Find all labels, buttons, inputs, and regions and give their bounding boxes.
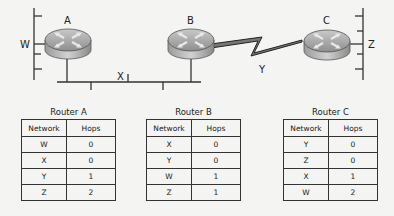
network-cell: X: [22, 153, 67, 169]
router-c: [304, 30, 350, 60]
hops-cell: 1: [67, 169, 116, 185]
network-cell: W: [147, 169, 192, 185]
table-row: X0: [22, 153, 116, 169]
routing-table-b: Router B Network Hops X0 Y0 W1 Z1: [146, 106, 241, 201]
network-cell: W: [284, 185, 329, 201]
table-header-row: Network Hops: [284, 120, 378, 137]
hops-cell: 0: [329, 153, 378, 169]
hops-cell: 2: [329, 185, 378, 201]
column-header-network: Network: [284, 120, 329, 137]
network-cell: Z: [147, 185, 192, 201]
table-row: X1: [284, 169, 378, 185]
hops-cell: 0: [192, 153, 241, 169]
table-header-row: Network Hops: [22, 120, 116, 137]
column-header-hops: Hops: [67, 120, 116, 137]
hops-cell: 2: [67, 185, 116, 201]
column-header-network: Network: [22, 120, 67, 137]
router-b-label: B: [187, 15, 194, 26]
table-row: W2: [284, 185, 378, 201]
table-title: Router C: [283, 106, 378, 119]
table-row: X0: [147, 137, 241, 153]
column-header-hops: Hops: [329, 120, 378, 137]
router-a: [45, 29, 91, 59]
table-row: Z1: [147, 185, 241, 201]
network-z-bus: [350, 8, 363, 80]
network-cell: X: [147, 137, 192, 153]
hops-cell: 1: [192, 169, 241, 185]
hops-cell: 0: [67, 137, 116, 153]
routing-table-c: Router C Network Hops Y0 Z0 X1 W2: [283, 106, 378, 201]
network-cell: Y: [147, 153, 192, 169]
table-title: Router A: [21, 106, 116, 119]
network-cell: Z: [284, 153, 329, 169]
table-row: Y0: [284, 137, 378, 153]
network-y-label: Y: [258, 64, 266, 75]
table-row: Y0: [147, 153, 241, 169]
network-cell: Y: [284, 137, 329, 153]
hops-cell: 0: [192, 137, 241, 153]
network-w-bus: [34, 8, 46, 80]
table-row: Y1: [22, 169, 116, 185]
network-diagram: W X Z Y A B C: [0, 0, 394, 106]
table-row: W1: [147, 169, 241, 185]
network-cell: X: [284, 169, 329, 185]
network-x-label: X: [117, 71, 124, 82]
hops-cell: 1: [329, 169, 378, 185]
column-header-hops: Hops: [192, 120, 241, 137]
network-cell: Z: [22, 185, 67, 201]
network-cell: W: [22, 137, 67, 153]
table-row: Z2: [22, 185, 116, 201]
hops-cell: 1: [192, 185, 241, 201]
network-w-label: W: [20, 39, 30, 50]
hops-cell: 0: [329, 137, 378, 153]
table-row: Z0: [284, 153, 378, 169]
routing-table-a: Router A Network Hops W0 X0 Y1 Z2: [21, 106, 116, 201]
network-cell: Y: [22, 169, 67, 185]
table-header-row: Network Hops: [147, 120, 241, 137]
router-c-label: C: [323, 15, 330, 26]
network-z-label: Z: [368, 39, 375, 50]
serial-link-y: [211, 37, 302, 56]
hops-cell: 0: [67, 153, 116, 169]
router-b: [168, 29, 214, 59]
table-row: W0: [22, 137, 116, 153]
router-a-label: A: [64, 15, 71, 26]
column-header-network: Network: [147, 120, 192, 137]
table-title: Router B: [146, 106, 241, 119]
